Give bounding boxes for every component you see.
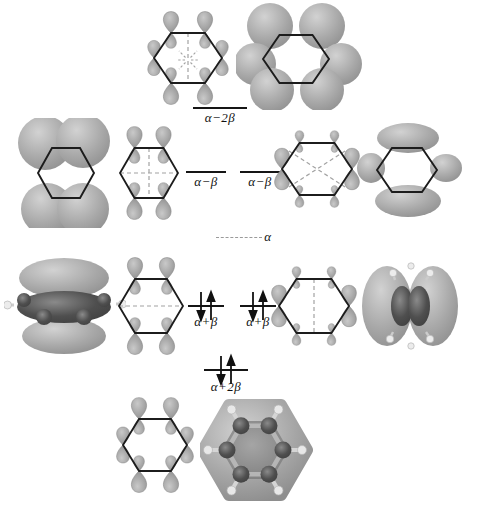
energy-level-label: α−β [176, 174, 236, 190]
schematic-orbital-psi6 [138, 4, 238, 108]
schematic-orbital-psi5 [270, 118, 366, 226]
energy-level-line-alpha-minus-2beta [193, 107, 247, 109]
energy-level-line-alpha-minus-beta-left [186, 171, 226, 173]
benzene-ring-hexagon [282, 143, 352, 195]
schematic-orbital-psi1 [110, 392, 202, 504]
isosurface-orbital-psi3 [362, 258, 482, 354]
nodal-starburst [178, 51, 198, 69]
energy-level-label: α+2β [196, 379, 256, 395]
isosurface-orbital-psi6 [236, 2, 362, 110]
benzene-ring-hexagon [123, 419, 187, 471]
schematic-orbital-psi4 [106, 120, 198, 226]
isosurface-orbital-psi5 [355, 120, 483, 224]
energy-level-label: α [256, 229, 280, 245]
benzene-pi-mo-diagram: α−2β α−β α−β α [0, 0, 484, 512]
hydrogen-atom [4, 301, 12, 309]
schematic-orbital-psi3 [270, 254, 370, 358]
energy-level-label: α+β [176, 314, 236, 330]
schematic-orbital-psi2 [108, 256, 198, 358]
isosurface-orbital-psi1 [200, 396, 324, 504]
